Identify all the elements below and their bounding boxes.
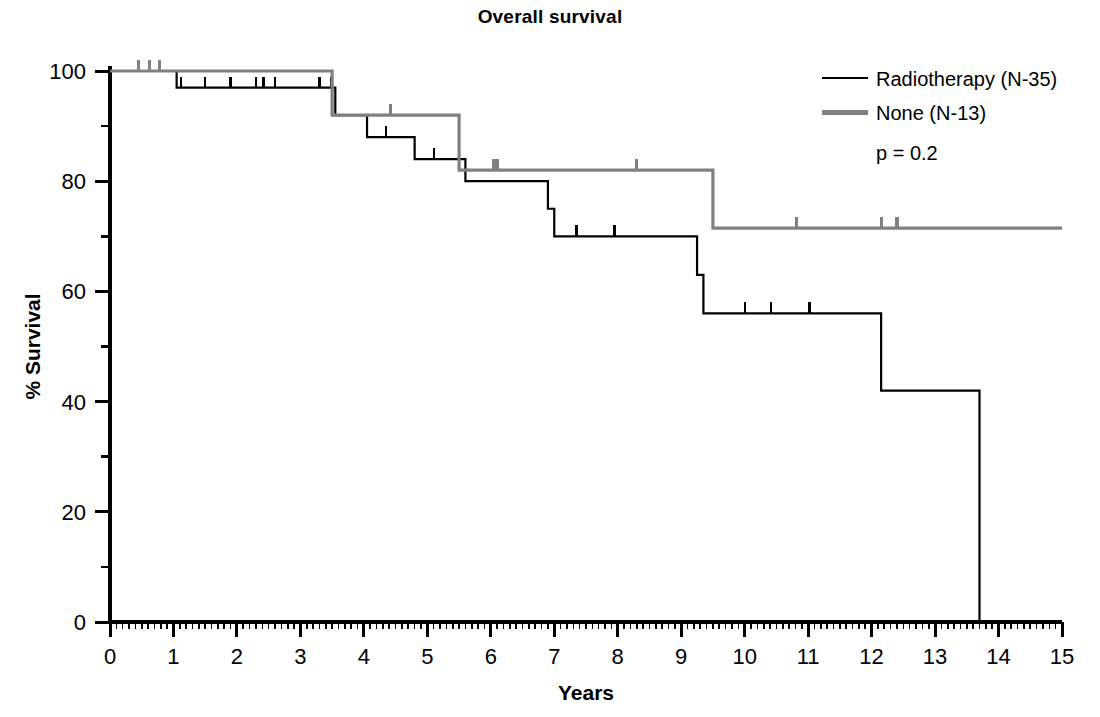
axis-tick-label: 2 [231,644,243,669]
axis-tick-label: 5 [421,644,433,669]
x-axis-title: Years [558,681,614,704]
axis-tick-label: 12 [859,644,883,669]
axis-tick-label: 10 [732,644,756,669]
survival-chart-plot: 0123456789101112131415020406080100Years%… [0,0,1100,717]
axis-tick-label: 100 [49,59,86,84]
axis-tick-label: 1 [167,644,179,669]
series-radiotherapy [110,71,979,622]
p-value-annotation: p = 0.2 [876,142,938,164]
y-axis-major-ticks: 020406080100 [49,59,110,635]
axis-tick-label: 80 [62,169,86,194]
figure-container: Overall survival 01234567891011121314150… [0,0,1100,717]
x-axis-major-ticks: 0123456789101112131415 [104,622,1074,669]
axis-tick-label: 60 [62,279,86,304]
axis-tick-label: 9 [675,644,687,669]
axis-tick-label: 0 [74,610,86,635]
axis-tick-label: 40 [62,390,86,415]
axis-tick-label: 11 [797,644,820,669]
axis-tick-label: 13 [923,644,947,669]
axis-tick-label: 15 [1050,644,1074,669]
legend: Radiotherapy (N-35)None (N-13)p = 0.2 [822,68,1057,164]
legend-label-radiotherapy: Radiotherapy (N-35) [876,68,1057,90]
y-axis-title: % Survival [21,293,44,399]
axis-tick-label: 6 [485,644,497,669]
axis-tick-label: 7 [548,644,560,669]
axis-tick-label: 8 [612,644,624,669]
axis-tick-label: 0 [104,644,116,669]
axis-tick-label: 4 [358,644,370,669]
step-curve [110,71,979,622]
axis-tick-label: 14 [986,644,1010,669]
axis-tick-label: 20 [62,500,86,525]
legend-label-none: None (N-13) [876,102,986,124]
axis-tick-label: 3 [294,644,306,669]
